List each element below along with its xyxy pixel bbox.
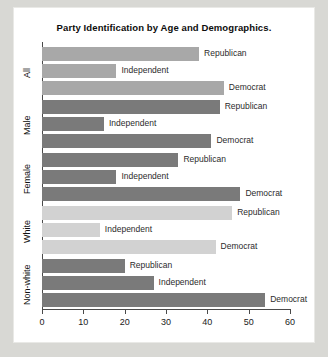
x-tick-label: 40 [192, 317, 222, 327]
bar-independent [42, 276, 154, 290]
chart-figure: Party Identification by Age and Demograp… [14, 8, 314, 342]
bar-row: Independent [42, 170, 292, 184]
bar-republican [42, 153, 178, 167]
bar-row: Democrat [42, 187, 292, 201]
bar-value-label: Independent [121, 65, 168, 75]
bar-group-male: RepublicanIndependentDemocrat [42, 100, 292, 151]
bar-value-label: Independent [121, 171, 168, 181]
x-tick-label: 30 [151, 317, 181, 327]
bar-republican [42, 100, 220, 114]
bar-democrat [42, 293, 265, 307]
category-label-non-white: Non-white [22, 259, 32, 310]
bar-row: Republican [42, 47, 292, 61]
bar-row: Democrat [42, 293, 292, 307]
bar-row: Republican [42, 100, 292, 114]
category-label-male: Male [22, 100, 32, 151]
plot-area: 0102030405060 RepublicanIndependentDemoc… [14, 42, 314, 342]
x-tick-label: 50 [234, 317, 264, 327]
bar-value-label: Independent [159, 277, 206, 287]
bar-row: Republican [42, 259, 292, 273]
bar-democrat [42, 81, 224, 95]
category-label-white: White [22, 206, 32, 257]
bar-value-label: Democrat [221, 241, 258, 251]
x-tick-label: 20 [110, 317, 140, 327]
bar-independent [42, 64, 116, 78]
bar-row: Democrat [42, 134, 292, 148]
bar-group-non-white: RepublicanIndependentDemocrat [42, 259, 292, 310]
chart-title: Party Identification by Age and Demograp… [14, 22, 314, 33]
bar-republican [42, 259, 125, 273]
bar-group-white: RepublicanIndependentDemocrat [42, 206, 292, 257]
bar-independent [42, 170, 116, 184]
bar-row: Republican [42, 153, 292, 167]
bar-row: Independent [42, 117, 292, 131]
bar-row: Republican [42, 206, 292, 220]
bar-value-label: Independent [105, 224, 152, 234]
bar-independent [42, 223, 100, 237]
bar-value-label: Republican [237, 207, 280, 217]
bar-group-all: RepublicanIndependentDemocrat [42, 47, 292, 98]
bar-republican [42, 206, 232, 220]
bar-row: Democrat [42, 81, 292, 95]
bar-row: Independent [42, 64, 292, 78]
bar-row: Democrat [42, 240, 292, 254]
bar-value-label: Republican [183, 154, 226, 164]
bar-row: Independent [42, 223, 292, 237]
bar-value-label: Independent [109, 118, 156, 128]
bar-democrat [42, 187, 240, 201]
x-tick-label: 10 [68, 317, 98, 327]
bar-group-female: RepublicanIndependentDemocrat [42, 153, 292, 204]
bar-value-label: Republican [204, 48, 247, 58]
bar-value-label: Democrat [229, 82, 266, 92]
bar-value-label: Democrat [216, 135, 253, 145]
x-tick-label: 60 [275, 317, 305, 327]
bar-row: Independent [42, 276, 292, 290]
bar-republican [42, 47, 199, 61]
x-tick-label: 0 [27, 317, 57, 327]
bar-democrat [42, 134, 211, 148]
bar-value-label: Republican [225, 101, 268, 111]
bar-independent [42, 117, 104, 131]
bar-value-label: Republican [130, 260, 173, 270]
category-label-all: All [22, 47, 32, 98]
bar-value-label: Democrat [270, 294, 307, 304]
bar-democrat [42, 240, 216, 254]
bar-value-label: Democrat [245, 188, 282, 198]
category-label-female: Female [22, 153, 32, 204]
